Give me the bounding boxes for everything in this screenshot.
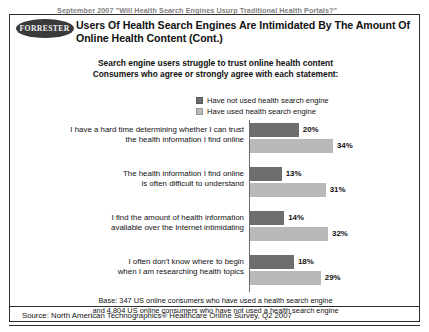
legend-label-have-used: Have used health search engine	[207, 107, 316, 116]
bar-value-2-series-1: 32%	[332, 227, 348, 241]
category-label-2: I find the amount of health information …	[30, 211, 244, 234]
category-label-3-line-0: I often don't know where to begin	[30, 257, 244, 267]
bar-0-series-0	[250, 123, 299, 137]
page-title: Users Of Health Search Engines Are Intim…	[76, 19, 420, 44]
category-label-3-line-1: when I am researching health topics	[30, 267, 244, 277]
bar-value-1-series-0: 13%	[286, 167, 302, 181]
category-label-0-line-0: I have a hard time determining whether I…	[30, 125, 244, 135]
category-label-3: I often don't know where to begin when I…	[30, 255, 244, 278]
bar-value-2-series-0: 14%	[288, 211, 304, 225]
chart-subhead-line1: Search engine users struggle to trust on…	[10, 58, 421, 69]
footer-divider-bottom	[9, 325, 420, 326]
bar-wrap-2: 14% 32%	[250, 211, 405, 247]
category-label-1: The health information I find online is …	[30, 167, 244, 190]
legend-swatch-icon-dark	[196, 97, 203, 104]
bar-wrap-3: 18% 29%	[250, 255, 405, 291]
footer-divider-top	[9, 306, 420, 307]
bar-value-0-series-0: 20%	[303, 123, 319, 137]
chart-card: FORRESTER Users Of Health Search Engines…	[9, 14, 420, 322]
category-label-2-line-1: available over the Internet intimidating	[30, 223, 244, 233]
bar-1-series-0	[250, 167, 282, 181]
legend-swatch-icon-light	[196, 108, 203, 115]
category-label-2-line-0: I find the amount of health information	[30, 213, 244, 223]
chart-legend: Have not used health search engine Have …	[196, 95, 329, 117]
bar-chart-plot: I have a hard time determining whether I…	[30, 120, 405, 292]
bar-3-series-1	[250, 271, 321, 285]
chart-subhead-line2: Consumers who agree or strongly agree wi…	[10, 69, 421, 80]
chart-subhead: Search engine users struggle to trust on…	[10, 58, 421, 80]
legend-item-have-used: Have used health search engine	[196, 106, 329, 116]
base-note-line1: Base: 347 US online consumers who have u…	[10, 296, 421, 306]
category-label-1-line-1: is often difficult to understand	[30, 179, 244, 189]
category-label-0: I have a hard time determining whether I…	[30, 123, 244, 146]
bar-group-2: I find the amount of health information …	[30, 211, 405, 247]
source-line: Source: North American Technographics® H…	[22, 311, 292, 320]
bar-group-1: The health information I find online is …	[30, 167, 405, 203]
bar-value-3-series-0: 18%	[298, 255, 314, 269]
bar-value-3-series-1: 29%	[325, 271, 341, 285]
legend-label-have-not-used: Have not used health search engine	[207, 96, 329, 105]
bar-value-0-series-1: 34%	[337, 139, 353, 153]
category-label-0-line-1: the health information I find online	[30, 135, 244, 145]
bar-group-0: I have a hard time determining whether I…	[30, 123, 405, 159]
bar-2-series-1	[250, 227, 328, 241]
bar-3-series-0	[250, 255, 294, 269]
bar-0-series-1	[250, 139, 333, 153]
bar-2-series-0	[250, 211, 284, 225]
bar-wrap-1: 13% 31%	[250, 167, 405, 203]
bar-wrap-0: 20% 34%	[250, 123, 405, 159]
bar-1-series-1	[250, 183, 326, 197]
bar-group-3: I often don't know where to begin when I…	[30, 255, 405, 291]
forrester-logo-text: FORRESTER	[20, 24, 70, 33]
category-label-1-line-0: The health information I find online	[30, 169, 244, 179]
bar-value-1-series-1: 31%	[330, 183, 346, 197]
forrester-logo: FORRESTER	[16, 19, 74, 38]
legend-item-have-not-used: Have not used health search engine	[196, 95, 329, 105]
